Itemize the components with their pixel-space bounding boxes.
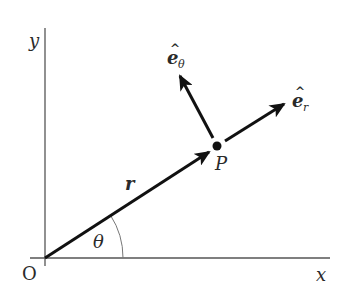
unit-vector-e-theta: [180, 76, 213, 138]
e-theta-label: ^ e θ: [167, 42, 185, 71]
e-theta-base: e: [167, 47, 178, 68]
theta-arc: [111, 215, 124, 258]
radius-label: r: [125, 173, 136, 194]
unit-vector-e-r: [225, 104, 284, 141]
polar-coordinates-diagram: y x O P r θ ^ e θ ^ e r: [0, 0, 349, 296]
e-theta-subscript: θ: [178, 58, 185, 71]
origin-label: O: [22, 263, 37, 284]
y-axis-label: y: [28, 30, 40, 51]
point-p-dot: [213, 142, 222, 151]
x-axis-label: x: [316, 264, 326, 285]
e-r-base: e: [292, 90, 303, 111]
position-vector-r: [45, 152, 209, 258]
e-r-subscript: r: [303, 101, 309, 114]
point-p-label: P: [214, 153, 228, 174]
e-r-label: ^ e r: [292, 85, 309, 114]
theta-label: θ: [93, 231, 104, 252]
